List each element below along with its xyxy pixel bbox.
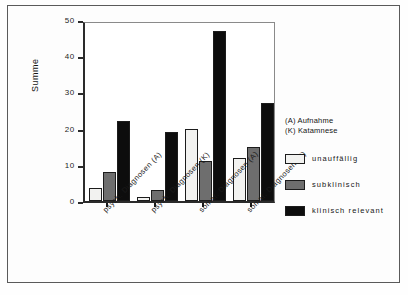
legend-item: subklinisch xyxy=(285,179,403,190)
bars-layer xyxy=(85,23,274,201)
legend-label: subklinisch xyxy=(312,180,361,189)
chart-figure: Summe 01020304050 psych. Diagnosen (A)ps… xyxy=(0,0,408,295)
legend: (A) Aufnahme (K) Katamnese unauffälligsu… xyxy=(285,116,403,231)
y-tick-label: 20 xyxy=(65,125,75,134)
y-tick-label: 0 xyxy=(70,197,75,206)
bar xyxy=(137,197,150,201)
y-tick-label: 50 xyxy=(65,16,75,25)
legend-note: (A) Aufnahme (K) Katamnese xyxy=(285,116,403,135)
legend-label: unauffällig xyxy=(312,154,358,163)
legend-swatch xyxy=(285,154,305,164)
y-tick-label: 10 xyxy=(65,161,75,170)
legend-swatch xyxy=(285,180,305,190)
legend-note-line-2: (K) Katamnese xyxy=(285,126,403,136)
legend-swatch xyxy=(285,206,305,216)
legend-item: unauffällig xyxy=(285,153,403,164)
bar xyxy=(213,31,226,201)
bar-group xyxy=(85,23,133,201)
legend-label: klinisch relevant xyxy=(312,206,384,215)
legend-item: klinisch relevant xyxy=(285,205,403,216)
legend-items: unauffälligsubklinischklinisch relevant xyxy=(285,153,403,216)
y-tick-label: 30 xyxy=(65,88,75,97)
bar xyxy=(89,188,102,201)
y-tick-label: 40 xyxy=(65,52,75,61)
legend-note-line-1: (A) Aufnahme xyxy=(285,116,403,126)
y-axis: 01020304050 xyxy=(0,0,83,295)
